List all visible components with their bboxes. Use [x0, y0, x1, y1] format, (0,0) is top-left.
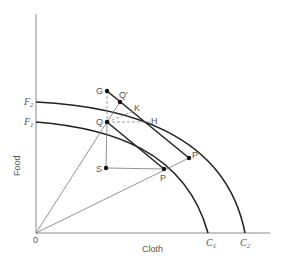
label-h: H — [151, 116, 158, 126]
label-g: G — [96, 86, 103, 96]
point-g — [105, 89, 109, 93]
point-p — [162, 167, 166, 171]
line-s-p — [106, 168, 164, 169]
label-k: K — [134, 103, 140, 113]
point-p-prime — [187, 156, 191, 160]
y-axis-label: Food — [12, 155, 22, 176]
label-c2: C2 — [240, 237, 251, 250]
label-f2: F2 — [23, 96, 34, 109]
label-q-prime: Q' — [119, 90, 128, 100]
origin-label: 0 — [33, 235, 38, 245]
label-f1: F1 — [23, 116, 34, 129]
point-s — [104, 166, 108, 170]
point-q — [105, 120, 109, 124]
ray-origin-q — [36, 122, 107, 233]
label-p-prime: P' — [192, 150, 200, 160]
label-s: S — [96, 164, 102, 174]
ppf-diagram: G Q' K H Q S P P' F2 F1 C1 C2 0 Cloth Fo… — [0, 0, 284, 265]
price-line-q-p — [107, 122, 164, 169]
frontier-f1-c1 — [36, 122, 208, 233]
point-q-prime — [118, 100, 122, 104]
line-q-s — [106, 122, 107, 168]
label-c1: C1 — [206, 237, 216, 250]
x-axis-label: Cloth — [142, 244, 163, 254]
label-q: Q — [96, 117, 103, 127]
label-p: P — [160, 173, 166, 183]
frontier-f2-c2 — [36, 102, 245, 233]
